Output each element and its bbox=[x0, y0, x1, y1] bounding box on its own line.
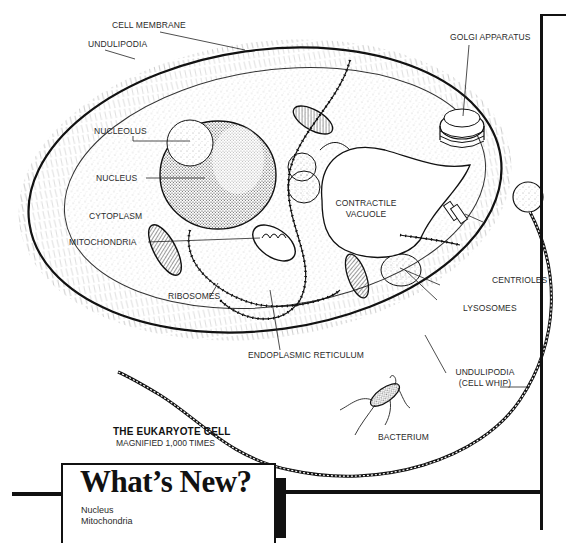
label-undulipodia-whip-line1: UNDULIPODIA bbox=[455, 367, 514, 377]
whats-new-box-shadow bbox=[276, 478, 286, 538]
label-cytoplasm: CYTOPLASM bbox=[89, 212, 142, 221]
label-undulipodia-whip-line2: (CELL WHIP) bbox=[459, 379, 511, 388]
whats-new-right-rule bbox=[286, 490, 542, 494]
label-cell-membrane: CELL MEMBRANE bbox=[112, 21, 186, 30]
label-ribosomes: RIBOSOMES bbox=[168, 292, 220, 301]
label-nucleus: NUCLEUS bbox=[96, 174, 137, 183]
label-nucleolus: NUCLEOLUS bbox=[94, 127, 147, 136]
label-contractile-vacuole-line1: CONTRACTILE bbox=[335, 198, 396, 208]
label-bacterium: BACTERIUM bbox=[378, 433, 429, 442]
whats-new-left-rule bbox=[12, 492, 62, 496]
whats-new-item: Nucleus bbox=[81, 505, 133, 516]
label-lysosomes: LYSOSOMES bbox=[463, 304, 517, 313]
diagram-title: THE EUKARYOTE CELL bbox=[113, 426, 231, 437]
label-contractile-vacuole-line2: VACUOLE bbox=[346, 210, 387, 219]
nucleus-organelle bbox=[160, 120, 276, 229]
frame-top-rule bbox=[540, 14, 566, 16]
whats-new-item: Mitochondria bbox=[81, 516, 133, 527]
frame-right-rule bbox=[540, 15, 543, 530]
label-mitochondria: MITOCHONDRIA bbox=[69, 238, 137, 247]
label-endoplasmic-reticulum: ENDOPLASMIC RETICULUM bbox=[248, 351, 364, 360]
whats-new-title: What’s New? bbox=[80, 466, 252, 497]
label-undulipodia-top: UNDULIPODIA bbox=[88, 40, 147, 49]
label-contractile-vacuole: CONTRACTILE VACUOLE bbox=[331, 199, 401, 218]
label-golgi-apparatus: GOLGI APPARATUS bbox=[450, 33, 531, 42]
diagram-subtitle: MAGNIFIED 1,000 TIMES bbox=[116, 438, 215, 448]
whats-new-list: Nucleus Mitochondria bbox=[81, 505, 133, 527]
bacterium-illustration bbox=[340, 376, 410, 435]
label-undulipodia-cell-whip: UNDULIPODIA (CELL WHIP) bbox=[445, 368, 525, 387]
